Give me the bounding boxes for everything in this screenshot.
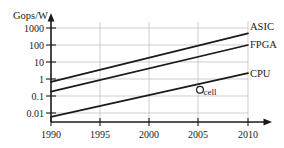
ytick-label-1: 1 [39,74,44,85]
xtick-label-2000: 2000 [139,129,159,140]
y-axis-label: Gops/W [13,10,48,21]
axis-lines [51,19,266,122]
xtick-label-2005: 2005 [188,129,208,140]
annotation-marker-cell [197,86,204,93]
ytick-label-0.01: 0.01 [27,108,45,119]
series-lines [51,33,248,117]
series-line-asic [51,33,248,82]
chart-canvas: Gops/W 1000 100 10 1 0.1 0.01 1990 1995 … [0,0,284,148]
xtick-label-1995: 1995 [90,129,110,140]
series-line-fpga [51,45,248,92]
annotation-label-cell: cell [204,87,217,97]
xtick-label-1990: 1990 [41,129,61,140]
series-label-cpu: CPU [250,68,271,79]
chart-figure: Gops/W 1000 100 10 1 0.1 0.01 1990 1995 … [0,0,284,148]
xtick-label-2010: 2010 [238,129,258,140]
series-line-cpu [51,73,248,117]
grid-vertical [100,22,248,122]
series-label-fpga: FPGA [250,39,277,50]
ytick-label-100: 100 [29,40,44,51]
arrow-right-icon [264,119,273,126]
arrow-up-icon [48,13,55,22]
ytick-label-10: 10 [34,57,44,68]
ytick-label-1000: 1000 [24,23,44,34]
ytick-label-0.1: 0.1 [32,91,45,102]
series-label-asic: ASIC [250,21,274,32]
